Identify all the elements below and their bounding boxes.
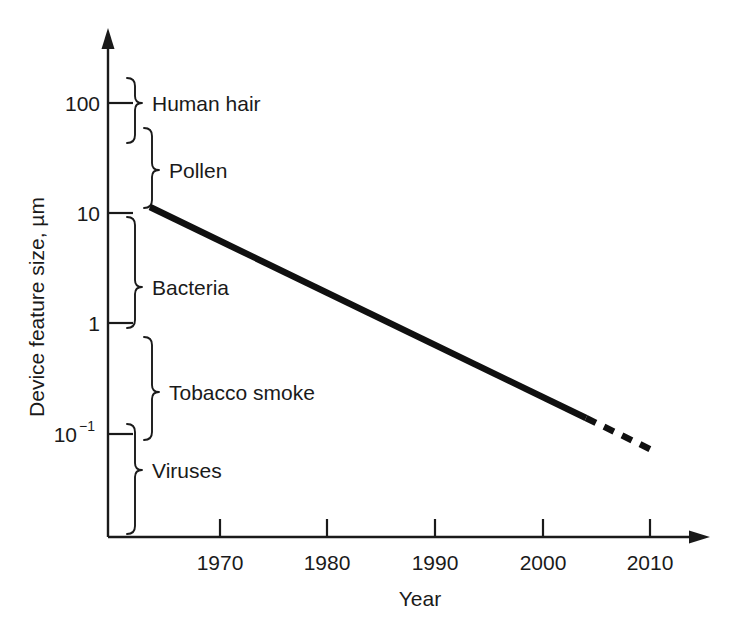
- chart-canvas: 100 10 1 10 −1 1970 1980 1990 2000 2010 …: [0, 0, 750, 638]
- x-tick-label-1990: 1990: [412, 551, 459, 574]
- brace-bacteria: [127, 217, 142, 328]
- y-axis-title: Device feature size, µm: [25, 197, 48, 417]
- y-tick-label-0-1-exponent: −1: [79, 418, 95, 434]
- y-tick-marks: [108, 103, 133, 434]
- annotation-label-viruses: Viruses: [152, 459, 222, 482]
- x-tick-label-1980: 1980: [304, 551, 351, 574]
- annotation-label-tobacco-smoke: Tobacco smoke: [169, 381, 315, 404]
- trend-line-projected: [586, 418, 656, 452]
- x-tick-label-1970: 1970: [197, 551, 244, 574]
- y-tick-label-100: 100: [65, 92, 100, 115]
- x-tick-label-2010: 2010: [627, 551, 674, 574]
- y-axis-arrow-icon: [102, 28, 115, 49]
- annotation-label-pollen: Pollen: [169, 159, 227, 182]
- annotation-label-human-hair: Human hair: [152, 92, 261, 115]
- brace-tobacco-smoke: [144, 337, 159, 440]
- brace-human-hair: [127, 78, 142, 143]
- annotation-label-bacteria: Bacteria: [152, 276, 229, 299]
- y-tick-label-1: 1: [88, 312, 100, 335]
- annotation-labels: Human hair Pollen Bacteria Tobacco smoke…: [152, 92, 315, 482]
- brace-pollen: [144, 128, 159, 208]
- x-axis-arrow-icon: [689, 531, 710, 544]
- x-tick-marks: [220, 519, 650, 537]
- chart-figure: 100 10 1 10 −1 1970 1980 1990 2000 2010 …: [0, 0, 750, 638]
- trend-line-group: [150, 207, 656, 452]
- x-tick-labels: 1970 1980 1990 2000 2010: [197, 551, 674, 574]
- y-tick-label-0-1-base: 10: [54, 423, 77, 446]
- y-tick-label-10: 10: [77, 202, 100, 225]
- brace-viruses: [127, 424, 142, 534]
- y-tick-labels: 100 10 1 10 −1: [54, 92, 100, 446]
- x-tick-label-2000: 2000: [520, 551, 567, 574]
- x-axis-title: Year: [399, 587, 441, 610]
